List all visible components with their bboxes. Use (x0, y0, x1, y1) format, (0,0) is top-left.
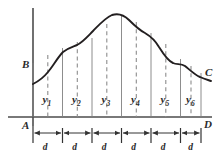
width-label-5: d (161, 142, 166, 152)
irregular-curve (33, 14, 211, 84)
mid-ordinate-lines (48, 22, 191, 117)
strip-dividers (33, 16, 201, 117)
label-A: A (21, 119, 29, 131)
label-C: C (205, 66, 213, 78)
ordinate-label-5: y5 (159, 93, 170, 108)
ordinate-labels: y1 y2 y3 y4 y5 y6 (41, 93, 195, 108)
ordinate-label-2: y2 (70, 93, 81, 108)
ordinate-label-4: y4 (129, 93, 140, 108)
ordinate-label-6: y6 (184, 93, 195, 108)
width-label-1: d (43, 142, 48, 152)
figure-canvas: B A C D y1 y2 y3 y4 y5 y6 (0, 0, 220, 156)
label-D: D (203, 118, 212, 130)
ordinate-label-1: y1 (41, 93, 52, 108)
width-label-4: d (131, 142, 136, 152)
irregular-area-figure: B A C D y1 y2 y3 y4 y5 y6 (0, 0, 220, 156)
width-labels: d d d d d d (43, 142, 194, 152)
ordinate-label-3: y3 (100, 93, 111, 108)
width-label-6: d (188, 142, 193, 152)
label-B: B (21, 58, 29, 70)
width-label-2: d (72, 142, 77, 152)
dimension-ticks (33, 126, 201, 143)
width-label-3: d (102, 142, 107, 152)
